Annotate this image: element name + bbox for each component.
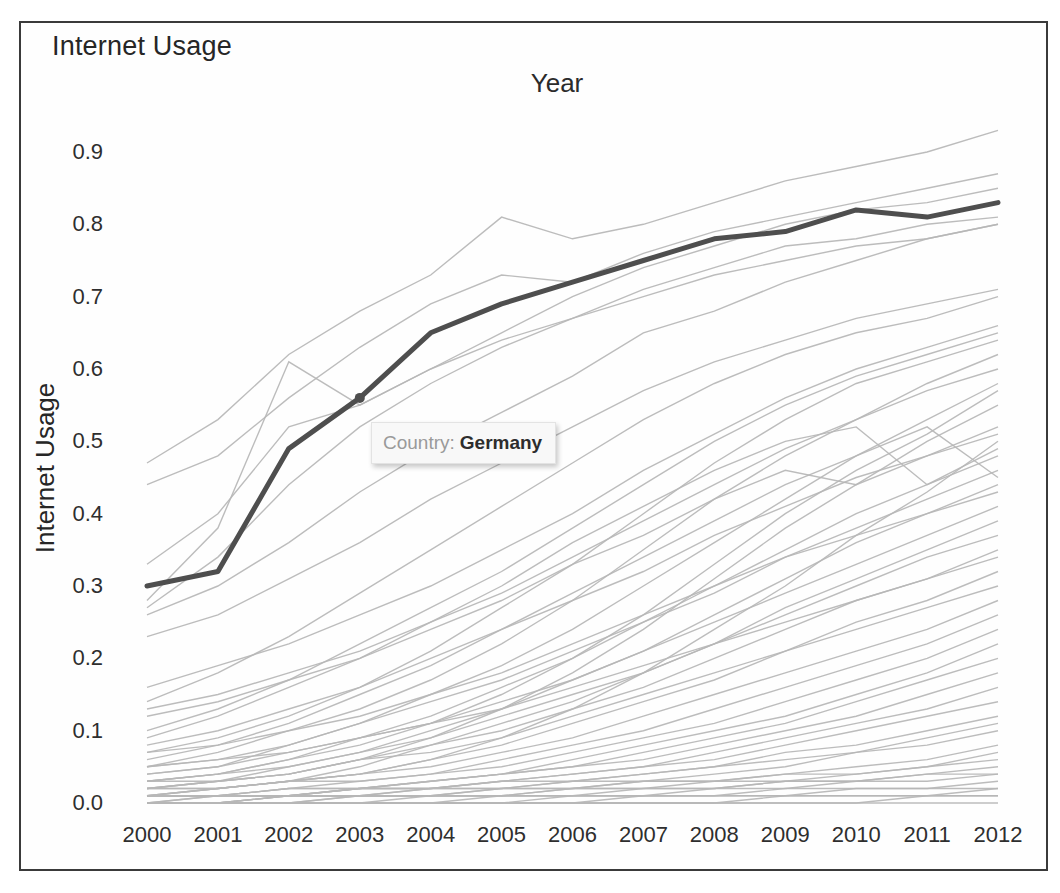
y-tick-label: 0.1 bbox=[30, 718, 103, 744]
y-tick-label: 0.3 bbox=[30, 573, 103, 599]
x-tick-label: 2010 bbox=[821, 822, 891, 848]
tooltip-value: Germany bbox=[460, 432, 542, 453]
x-tick-label: 2009 bbox=[750, 822, 820, 848]
x-tick-label: 2007 bbox=[608, 822, 678, 848]
x-tick-label: 2001 bbox=[183, 822, 253, 848]
country-line[interactable] bbox=[147, 355, 998, 767]
x-tick-label: 2003 bbox=[325, 822, 395, 848]
x-tick-label: 2000 bbox=[112, 822, 182, 848]
y-tick-label: 0.2 bbox=[30, 645, 103, 671]
country-line[interactable] bbox=[147, 731, 998, 796]
y-tick-label: 0.0 bbox=[30, 790, 103, 816]
y-tick-label: 0.6 bbox=[30, 356, 103, 382]
x-tick-label: 2004 bbox=[396, 822, 466, 848]
country-line[interactable] bbox=[147, 781, 998, 803]
y-tick-label: 0.5 bbox=[30, 428, 103, 454]
x-tick-label: 2008 bbox=[679, 822, 749, 848]
y-tick-label: 0.9 bbox=[30, 139, 103, 165]
tooltip-label: Country: bbox=[383, 432, 455, 453]
x-tick-label: 2012 bbox=[963, 822, 1033, 848]
y-tick-label: 0.4 bbox=[30, 501, 103, 527]
y-tick-label: 0.7 bbox=[30, 284, 103, 310]
x-tick-label: 2005 bbox=[467, 822, 537, 848]
hover-point-marker[interactable] bbox=[355, 393, 365, 403]
x-tick-label: 2002 bbox=[254, 822, 324, 848]
country-line[interactable] bbox=[147, 434, 998, 745]
tooltip: Country:Germany bbox=[371, 422, 556, 464]
y-tick-label: 0.8 bbox=[30, 211, 103, 237]
internet-usage-chart-page: Internet Usage Year Internet Usage 0.90.… bbox=[0, 0, 1060, 893]
x-tick-label: 2006 bbox=[538, 822, 608, 848]
x-tick-label: 2011 bbox=[892, 822, 962, 848]
